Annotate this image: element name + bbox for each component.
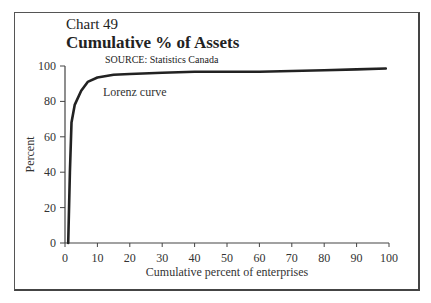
x-tick-label: 50: [221, 251, 233, 265]
x-tick-label: 10: [91, 251, 103, 265]
x-tick-label: 100: [380, 251, 398, 265]
x-tick-label: 0: [62, 251, 68, 265]
y-tick-label: 60: [44, 130, 56, 144]
y-tick-label: 80: [44, 94, 56, 108]
x-tick-label: 30: [156, 251, 168, 265]
x-tick-label: 60: [253, 251, 265, 265]
y-tick-label: 0: [50, 236, 56, 250]
x-tick-label: 90: [351, 251, 363, 265]
x-tick-label: 70: [286, 251, 298, 265]
x-axis-label: Cumulative percent of enterprises: [146, 265, 309, 279]
y-tick-label: 100: [38, 59, 56, 73]
x-tick-label: 80: [318, 251, 330, 265]
y-tick-label: 20: [44, 201, 56, 215]
curve-annotation: Lorenz curve: [103, 85, 167, 99]
x-tick-label: 40: [189, 251, 201, 265]
y-tick-label: 40: [44, 165, 56, 179]
plot-area: 0204060801000102030405060708090100Cumula…: [0, 0, 431, 303]
x-tick-label: 20: [124, 251, 136, 265]
y-axis-label: Percent: [23, 136, 37, 173]
